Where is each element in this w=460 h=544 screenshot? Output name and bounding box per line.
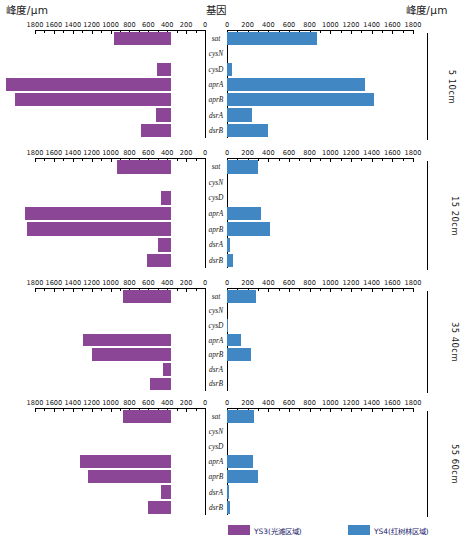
gene-label: sat xyxy=(206,292,226,301)
gene-row: aprA xyxy=(0,333,419,348)
axis-tick-label: 600 xyxy=(142,399,155,407)
gene-label: aprA xyxy=(206,457,226,466)
axis-tick-label: 0 xyxy=(225,21,229,29)
bar-ys3 xyxy=(15,93,171,106)
legend-item-ys4: YS4(红树林区域) xyxy=(348,524,429,536)
bar-ys3 xyxy=(92,348,171,361)
axis-tick-label: 1000 xyxy=(102,279,119,287)
gene-row: cysD xyxy=(0,62,419,77)
bar-ys4 xyxy=(227,32,317,45)
bar-ys3 xyxy=(27,222,171,236)
gene-label: sat xyxy=(206,34,226,43)
gene-label: cysD xyxy=(206,321,226,330)
bar-ys3 xyxy=(117,160,171,174)
axis-tick-label: 1800 xyxy=(405,399,422,407)
legend-label-ys4: YS4(红树林区域) xyxy=(374,525,429,536)
gene-row: cysN xyxy=(0,304,419,319)
bar-ys4 xyxy=(227,238,230,252)
bar-ys3 xyxy=(83,334,171,347)
chart-legend: YS3(光滩区域) YS4(红树林区域) xyxy=(0,524,453,540)
gene-row: dsrB xyxy=(0,377,419,392)
gene-row: dsrB xyxy=(0,123,419,138)
bar-ys3 xyxy=(123,290,171,303)
axis-tick-label: 1800 xyxy=(27,21,44,29)
axis-tick-label: 200 xyxy=(180,21,193,29)
bar-ys4 xyxy=(227,501,230,514)
axis-tick-label: 0 xyxy=(203,149,207,157)
gene-row: sat xyxy=(0,159,419,175)
center-axis-title: 基因 xyxy=(206,2,227,17)
axis-tick-label: 1400 xyxy=(363,399,380,407)
depth-label: 15 20cm xyxy=(450,195,460,235)
plot-area: satcysNcysDaprAaprBdsrAdsrB xyxy=(0,159,419,276)
bar-ys3 xyxy=(123,410,171,423)
axis-tick-label: 1800 xyxy=(405,279,422,287)
bar-ys3 xyxy=(161,191,171,205)
axis-tick-label: 0 xyxy=(203,399,207,407)
axis-tick-label: 600 xyxy=(142,21,155,29)
axis-tick-label: 1400 xyxy=(363,149,380,157)
axis-tick-label: 1600 xyxy=(45,279,62,287)
bar-ys4 xyxy=(227,334,241,347)
gene-label: aprB xyxy=(206,225,226,234)
axis-tick-label: 400 xyxy=(161,399,174,407)
axis-tick-label: 1600 xyxy=(45,149,62,157)
depth-bracket: 55 60cm xyxy=(419,411,453,517)
gene-row: aprB xyxy=(0,347,419,362)
gene-label: sat xyxy=(206,162,226,171)
axis-tick-label: 1000 xyxy=(102,399,119,407)
depth-bracket-line xyxy=(427,291,428,393)
gene-label: cysD xyxy=(206,65,226,74)
axis-tick-label: 1400 xyxy=(64,399,81,407)
axis-tick-label: 600 xyxy=(142,149,155,157)
axis-tick-label: 1400 xyxy=(64,21,81,29)
axis-tick-label: 1800 xyxy=(27,279,44,287)
axis-tick-label: 600 xyxy=(283,21,296,29)
bar-ys4 xyxy=(227,485,229,498)
bar-ys3 xyxy=(163,363,171,376)
left-axis-title: 峰度/μm xyxy=(6,2,48,17)
bar-ys4 xyxy=(227,455,253,468)
axis-tick-label: 200 xyxy=(241,279,254,287)
gene-row: aprB xyxy=(0,221,419,237)
axis-tick-label: 800 xyxy=(123,21,136,29)
bar-ys4 xyxy=(227,124,268,137)
bar-ys4 xyxy=(227,290,256,303)
depth-label: 5 10cm xyxy=(447,69,457,103)
bar-ys4 xyxy=(227,160,258,174)
gene-row: aprA xyxy=(0,454,419,469)
gene-row: dsrA xyxy=(0,484,419,499)
axis-tick-label: 1000 xyxy=(322,21,339,29)
legend-label-ys3: YS3(光滩区域) xyxy=(254,525,302,536)
axis-tick-label: 1200 xyxy=(343,399,360,407)
bar-ys4 xyxy=(227,108,252,121)
bar-ys3 xyxy=(148,501,171,514)
axis-tick-label: 1600 xyxy=(45,21,62,29)
bar-ys3 xyxy=(156,108,171,121)
axis-tick-label: 1200 xyxy=(343,21,360,29)
bar-ys3 xyxy=(141,124,171,137)
bar-ys3 xyxy=(150,378,171,391)
axis-tick-label: 200 xyxy=(241,149,254,157)
depth-bracket-line xyxy=(427,161,428,270)
bar-ys3 xyxy=(161,485,171,498)
gene-label: aprA xyxy=(206,209,226,218)
axis-tick-label: 200 xyxy=(180,279,193,287)
axis-tick-label: 600 xyxy=(142,279,155,287)
axis-tick-label: 400 xyxy=(262,399,275,407)
bar-ys4 xyxy=(227,207,261,221)
gene-label: dsrB xyxy=(206,256,226,265)
axis-tick-label: 1200 xyxy=(83,21,100,29)
gene-row: aprA xyxy=(0,206,419,222)
axis-tick-label: 1400 xyxy=(64,149,81,157)
bar-ys4 xyxy=(227,410,254,423)
legend-item-ys3: YS3(光滩区域) xyxy=(228,524,302,536)
depth-bracket: 35 40cm xyxy=(419,291,453,393)
axis-tick-label: 1200 xyxy=(83,399,100,407)
gene-row: cysD xyxy=(0,318,419,333)
axis-tick-label: 600 xyxy=(283,149,296,157)
bar-ys3 xyxy=(80,455,171,468)
gene-row: dsrB xyxy=(0,253,419,269)
axis-tick-label: 1600 xyxy=(384,279,401,287)
